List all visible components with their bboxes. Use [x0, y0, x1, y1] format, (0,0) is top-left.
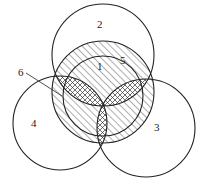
- label-6: 6: [18, 67, 24, 78]
- label-1: 1: [97, 61, 103, 72]
- label-2: 2: [97, 19, 103, 30]
- label-4: 4: [31, 118, 37, 129]
- label-3: 3: [154, 122, 160, 133]
- venn-diagram: 2 1 5 6 4 3: [0, 0, 204, 183]
- label-5: 5: [120, 55, 126, 66]
